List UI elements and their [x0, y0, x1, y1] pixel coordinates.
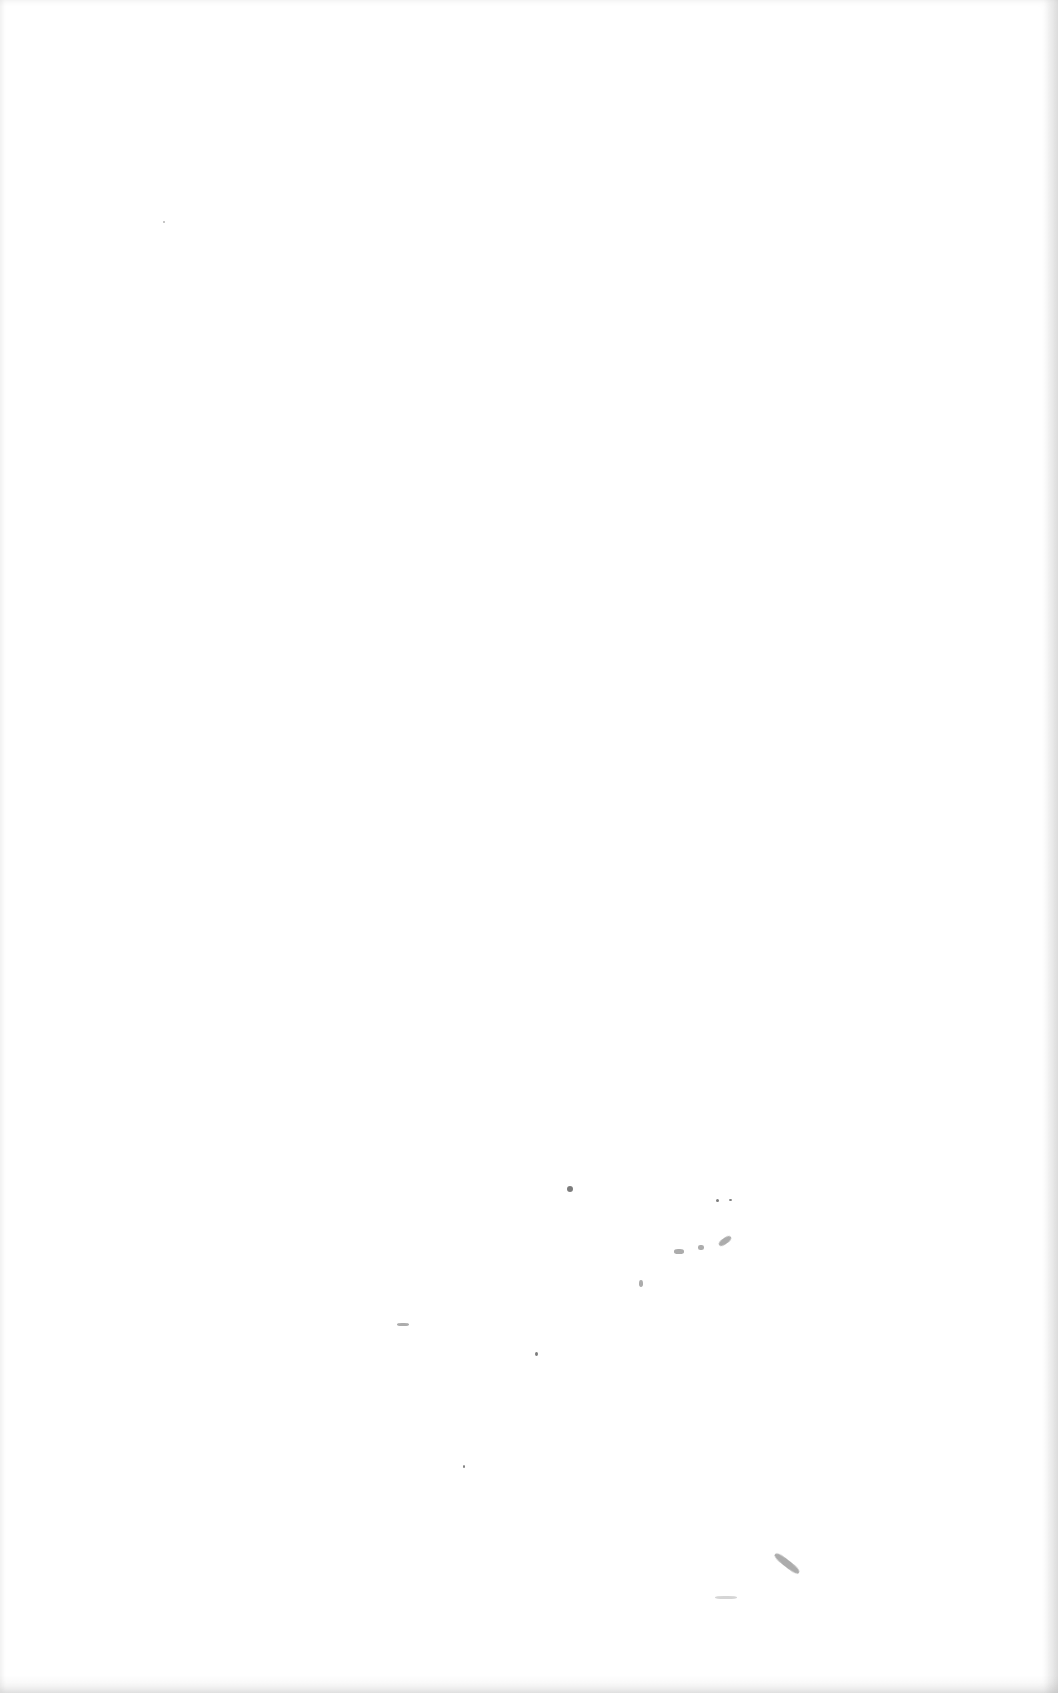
debris-mark: [698, 1245, 704, 1250]
page-bottom-edge-shadow: [0, 1675, 1058, 1693]
debris-mark: [674, 1249, 684, 1254]
dust-speck: [163, 221, 165, 223]
dust-speck: [729, 1199, 732, 1201]
dust-speck: [567, 1186, 573, 1192]
dust-speck: [463, 1465, 465, 1468]
dust-speck: [535, 1352, 538, 1356]
debris-mark: [639, 1280, 643, 1287]
dust-speck: [716, 1199, 719, 1202]
debris-mark: [773, 1552, 801, 1576]
debris-mark: [397, 1323, 409, 1326]
blank-page: [0, 0, 1058, 1693]
page-right-edge-shadow: [1044, 0, 1058, 1693]
debris-mark: [718, 1235, 733, 1248]
debris-mark: [715, 1596, 737, 1599]
